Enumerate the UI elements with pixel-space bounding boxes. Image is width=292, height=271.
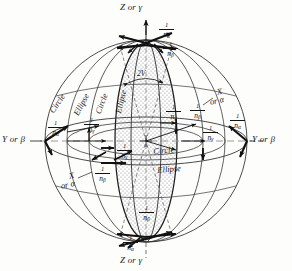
indicatrix-svg — [0, 0, 292, 271]
radius-label-left-alpha: 1 nα — [48, 120, 63, 136]
radius-label-mid-right-beta: 1 nβ — [190, 103, 205, 119]
indicatrix-figure: Z or γ Z or γ Y or β Y or β X or α X or … — [0, 0, 292, 271]
radius-label-mid-left-gamma: 1 nγ — [117, 143, 132, 159]
radius-label-right-alpha: 1 nα — [230, 113, 245, 129]
radius-label-bottom-alpha: 1 nα — [123, 235, 138, 251]
indicatrix-geometry — [30, 20, 266, 258]
leader-x-alpha-lower — [78, 172, 92, 178]
radius-label-left-gamma: 1 nγ — [84, 117, 99, 133]
radius-label-top-beta: 1 nβ — [163, 41, 178, 57]
radius-label-top-alpha: 1 nα — [159, 22, 174, 38]
radius-label-mid-right-gamma: 1 nγ — [166, 104, 181, 120]
angle-label-2v: 2V — [137, 69, 145, 78]
radius-label-lower-left-beta: 1 nβ — [95, 166, 110, 182]
radius-label-bottom-beta: 1 nβ — [139, 205, 154, 221]
radius-label-right-gamma: 1 nγ — [203, 125, 218, 141]
